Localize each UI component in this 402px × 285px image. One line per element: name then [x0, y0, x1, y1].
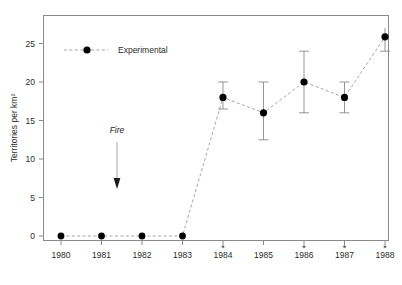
- fire-annotation-label: Fire: [110, 125, 125, 135]
- data-point-1988: [381, 33, 388, 40]
- data-point-1985: [260, 109, 267, 116]
- legend-marker-experimental: [83, 46, 90, 53]
- fire-annotation: Fire: [110, 125, 125, 189]
- x-tick-label-1981: 1981: [92, 250, 111, 260]
- territories-per-km2-line-chart: 25 20 15 10 5 0 Territories per km² 1980…: [0, 0, 402, 285]
- y-tick-label-10: 10: [26, 154, 36, 164]
- data-point-1987: [341, 94, 348, 101]
- significance-star-1988: *: [383, 243, 387, 253]
- chart-figure: 25 20 15 10 5 0 Territories per km² 1980…: [0, 0, 402, 285]
- data-point-markers: [58, 33, 389, 239]
- fire-arrow-head-icon: [114, 178, 121, 189]
- data-point-1984: [219, 94, 226, 101]
- x-tick-label-1985: 1985: [254, 250, 273, 260]
- x-tick-label-1983: 1983: [173, 250, 192, 260]
- y-tick-label-15: 15: [26, 116, 36, 126]
- y-axis-tick-labels: 25 20 15 10 5 0: [26, 39, 36, 242]
- y-tick-label-25: 25: [26, 39, 36, 49]
- y-tick-label-5: 5: [30, 193, 35, 203]
- chart-legend: Experimental: [64, 45, 168, 55]
- x-tick-label-1980: 1980: [52, 250, 71, 260]
- data-point-1980: [58, 233, 65, 240]
- y-axis-ticks: [39, 44, 44, 237]
- legend-label-experimental: Experimental: [118, 45, 168, 55]
- data-point-1981: [98, 233, 105, 240]
- plot-frame: [44, 16, 389, 241]
- y-tick-label-20: 20: [26, 77, 36, 87]
- significance-star-1986: *: [302, 243, 306, 253]
- y-tick-label-0: 0: [30, 231, 35, 241]
- series-line-experimental: [61, 37, 385, 236]
- data-point-1982: [139, 233, 146, 240]
- data-point-1986: [300, 78, 307, 85]
- significance-star-1987: *: [343, 243, 347, 253]
- data-point-1983: [179, 233, 186, 240]
- x-tick-label-1982: 1982: [133, 250, 152, 260]
- y-axis-title: Territories per km²: [9, 94, 19, 163]
- significance-star-1984: *: [221, 243, 225, 253]
- significance-markers: * * * *: [221, 243, 387, 253]
